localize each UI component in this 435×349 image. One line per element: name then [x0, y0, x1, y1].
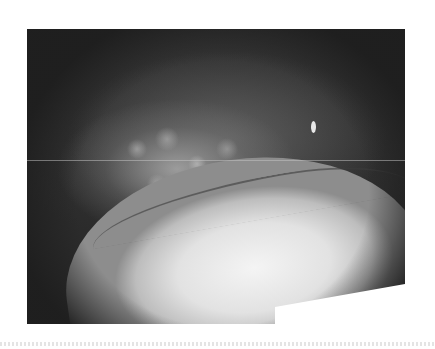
- scan-border-artifact: [0, 342, 435, 346]
- endoscopic-photo: [27, 29, 405, 324]
- specular-highlight: [311, 121, 316, 133]
- scope-vignette: [27, 29, 405, 324]
- scan-line-artifact: [27, 160, 405, 161]
